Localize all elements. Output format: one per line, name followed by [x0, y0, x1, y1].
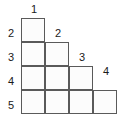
- row-label-2: 2: [4, 28, 18, 39]
- grid-cell: [21, 42, 45, 66]
- grid-cell: [45, 90, 69, 114]
- grid-cell: [45, 66, 69, 90]
- staircase-diagram: 12342345: [0, 0, 124, 124]
- row-label-3: 3: [4, 52, 18, 63]
- column-label-4: 4: [99, 66, 113, 77]
- grid-cell: [21, 90, 45, 114]
- grid-cell: [69, 90, 93, 114]
- column-label-3: 3: [75, 52, 89, 63]
- row-label-4: 4: [4, 76, 18, 87]
- column-label-2: 2: [51, 28, 65, 39]
- grid-cell: [93, 90, 117, 114]
- row-label-5: 5: [4, 100, 18, 111]
- grid-cell: [69, 66, 93, 90]
- grid-cell: [21, 66, 45, 90]
- grid-cell: [21, 18, 45, 42]
- column-label-1: 1: [27, 4, 41, 15]
- grid-cell: [45, 42, 69, 66]
